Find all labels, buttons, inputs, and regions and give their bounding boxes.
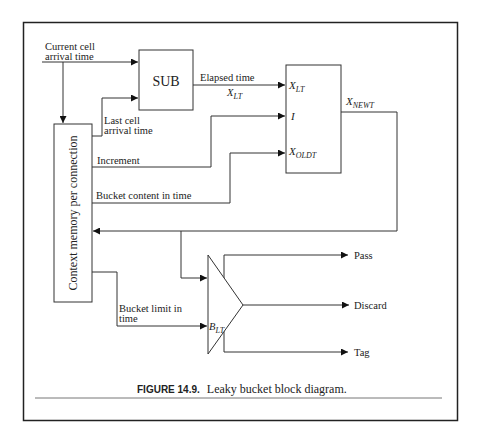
leaky-bucket-diagram: SUB Context memory per connection Curren… — [0, 0, 479, 445]
bucket-limit-label-2: time — [119, 313, 138, 324]
sub-label: SUB — [152, 74, 179, 89]
bucket-limit-line — [92, 272, 207, 326]
tag-line — [224, 330, 348, 352]
output-pass-label: Pass — [354, 250, 373, 261]
output-discard-label: Discard — [354, 300, 387, 311]
figure-caption: FIGURE 14.9. Leaky bucket block diagram. — [137, 379, 347, 396]
figure-caption-text: Leaky bucket block diagram. — [207, 382, 347, 396]
figure-number: FIGURE 14.9. — [137, 384, 200, 395]
comparator-triangle — [208, 255, 243, 354]
pass-line — [224, 255, 348, 280]
last-cell-label-2: arrival time — [104, 125, 153, 136]
elapsed-symbol: XLT — [226, 87, 243, 101]
bucket-content-label: Bucket content in time — [96, 190, 192, 201]
context-memory-label: Context memory per connection — [66, 136, 80, 291]
increment-label: Increment — [97, 155, 140, 166]
output-xnewt: XNEWT — [345, 95, 375, 110]
current-cell-label-2: arrival time — [45, 51, 94, 62]
output-tag-label: Tag — [354, 347, 370, 358]
feedback-to-comparator-line — [181, 231, 207, 278]
elapsed-time-label: Elapsed time — [200, 72, 255, 83]
